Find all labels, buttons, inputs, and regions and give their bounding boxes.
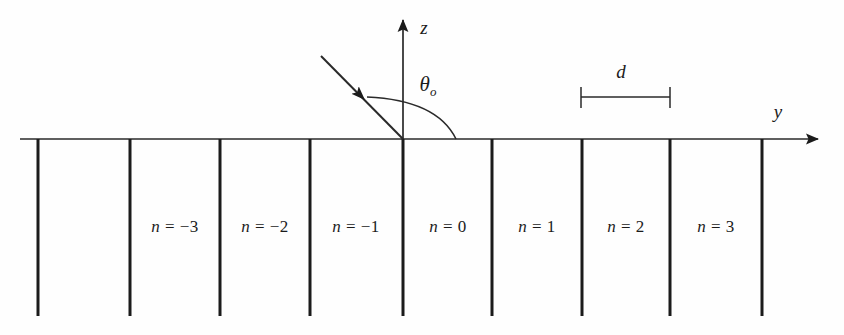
order-value: 2 [636,217,645,236]
order-equals: = [255,217,265,236]
order-value: 0 [458,217,467,236]
order-label: n = 0 [429,217,467,237]
figure-canvas [0,0,844,335]
incident-ray-line [321,56,403,139]
order-label: n = −2 [241,217,289,237]
order-value: −1 [361,217,380,236]
order-variable: n [607,217,616,236]
order-variable: n [241,217,250,236]
order-label: n = −1 [332,217,380,237]
order-value: 3 [726,217,735,236]
angle-arc [367,97,456,139]
order-equals: = [711,217,721,236]
order-label: n = 3 [697,217,735,237]
theta-subscript: o [430,84,437,99]
diffraction-grating-figure: y z θo d n = −3 n = −2 n = −1 n = 0 n = … [0,0,844,335]
order-variable: n [518,217,527,236]
order-variable: n [151,217,160,236]
order-equals: = [621,217,631,236]
order-value: −2 [270,217,289,236]
order-equals: = [346,217,356,236]
order-value: −3 [180,217,199,236]
order-variable: n [697,217,706,236]
order-label: n = 1 [518,217,556,237]
incident-ray [321,56,403,139]
incidence-angle-label: θo [420,72,437,100]
period-dimension-marker [581,87,670,108]
grating-lines [38,139,762,316]
order-variable: n [332,217,341,236]
z-axis-label: z [420,17,427,39]
order-label: n = 2 [607,217,645,237]
order-equals: = [532,217,542,236]
y-axis-label: y [774,101,782,123]
order-equals: = [165,217,175,236]
order-value: 1 [547,217,556,236]
theta-symbol: θ [420,72,430,96]
order-label: n = −3 [151,217,199,237]
period-label: d [616,61,626,83]
order-equals: = [443,217,453,236]
order-variable: n [429,217,438,236]
